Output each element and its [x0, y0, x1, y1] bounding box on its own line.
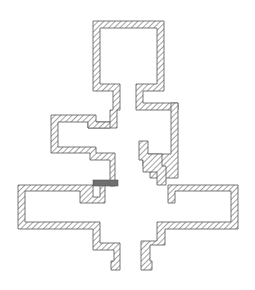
wall-left-lower-arm [18, 185, 120, 270]
wall-left-upper-arm [51, 115, 115, 186]
wall-top-chamber [88, 21, 178, 128]
diagram-canvas [0, 0, 255, 290]
hatched-walls [18, 21, 238, 270]
wall-right-lower-arm [141, 185, 238, 270]
feed-bar [93, 180, 118, 186]
